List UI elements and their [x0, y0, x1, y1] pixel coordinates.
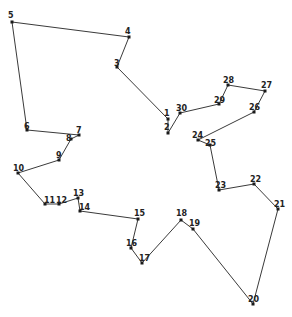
tour-node-label: 17 [139, 254, 150, 263]
tour-node-label: 21 [274, 200, 286, 209]
tour-node-label: 26 [249, 103, 261, 112]
tour-node-18 [180, 219, 183, 222]
tour-node-label: 19 [189, 219, 201, 228]
tour-node-label: 27 [261, 81, 272, 90]
tour-node-label: 28 [223, 76, 235, 85]
tour-node-label: 4 [125, 27, 131, 36]
tour-node-label: 18 [176, 209, 188, 218]
tour-node-label: 5 [8, 11, 14, 20]
tour-node-label: 16 [126, 239, 138, 248]
tour-node-label: 24 [192, 131, 204, 140]
tour-node-label: 3 [114, 59, 120, 68]
tour-node-label: 14 [79, 203, 91, 212]
tour-node-label: 1 [164, 109, 170, 118]
tour-node-label: 7 [76, 126, 82, 135]
tour-node-label: 12 [56, 196, 67, 205]
tour-node-label: 22 [250, 175, 261, 184]
tour-node-label: 30 [176, 104, 188, 113]
tour-node-label: 25 [205, 139, 217, 148]
tour-node-label: 6 [24, 122, 30, 131]
tour-diagram: 1234567891011121314151617181920212223242… [0, 0, 292, 317]
tour-node-label: 23 [215, 181, 226, 190]
tour-node-label: 2 [164, 123, 170, 132]
tour-node-label: 11 [44, 196, 56, 205]
tour-node-label: 15 [134, 209, 146, 218]
tour-node-label: 20 [248, 295, 260, 304]
tour-node-label: 9 [56, 151, 62, 160]
tour-node-label: 10 [13, 164, 25, 173]
tour-node-label: 8 [66, 134, 72, 143]
tour-node-label: 13 [73, 189, 84, 198]
tour-node-5 [11, 21, 14, 24]
tour-node-labels: 1234567891011121314151617181920212223242… [8, 11, 286, 304]
tour-node-label: 29 [214, 96, 226, 105]
